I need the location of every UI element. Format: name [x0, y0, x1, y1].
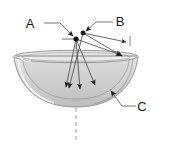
leader-a [44, 23, 73, 36]
figure-canvas: A B C [0, 0, 177, 154]
leader-b [86, 22, 113, 31]
bowl-diagram-svg: A B C [0, 0, 177, 154]
node-a-dot[interactable] [73, 36, 78, 41]
label-a: A [26, 16, 35, 31]
node-b-dot[interactable] [81, 31, 86, 36]
label-b: B [116, 14, 125, 29]
label-c: C [137, 99, 146, 114]
ray-4 [83, 33, 126, 42]
